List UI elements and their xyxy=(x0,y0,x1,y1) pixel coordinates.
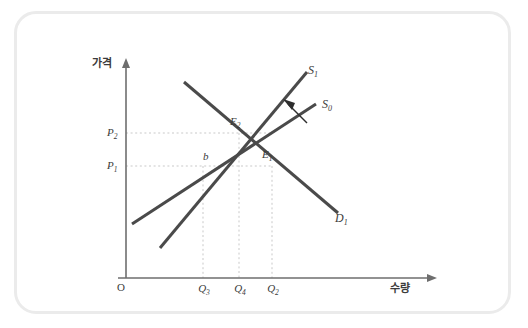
guide-lines xyxy=(126,133,272,278)
price-tick-p1-sub: 1 xyxy=(114,165,118,174)
price-tick-p1-base: P xyxy=(107,159,114,171)
axes xyxy=(118,65,430,278)
quantity-tick-q4-base: Q xyxy=(234,282,242,294)
price-tick-p2: P2 xyxy=(107,126,117,141)
supply-curve-s0 xyxy=(132,104,316,224)
point-label-e1: E1 xyxy=(262,148,272,163)
curve-label-d1-base: D xyxy=(335,211,344,225)
curve-label-s0-sub: 0 xyxy=(328,104,332,113)
quantity-tick-q2: Q2 xyxy=(264,282,282,297)
point-label-e2-base: E xyxy=(230,115,237,127)
point-label-b-base: b xyxy=(203,150,209,162)
quantity-tick-q2-base: Q xyxy=(267,282,275,294)
quantity-tick-q3-sub: 3 xyxy=(206,288,210,297)
point-label-e2: E2 xyxy=(230,115,240,130)
quantity-tick-q3-base: Q xyxy=(198,282,206,294)
point-label-e2-sub: 2 xyxy=(237,121,241,130)
supply-curve-s1 xyxy=(160,72,307,248)
curves xyxy=(132,72,338,248)
point-label-e1-base: E xyxy=(262,148,269,160)
quantity-tick-q3: Q3 xyxy=(195,282,213,297)
x-axis-arrowhead xyxy=(427,274,437,282)
y-axis-arrowhead xyxy=(122,58,130,68)
quantity-tick-q2-sub: 2 xyxy=(275,288,279,297)
screenshot-root: 가격 수량 O S1 S0 D1 E2 E1 b P2 P1 Q3 Q4 Q2 xyxy=(0,0,528,328)
quantity-tick-q4-sub: 4 xyxy=(242,288,246,297)
price-tick-p1: P1 xyxy=(107,159,117,174)
curve-label-d1: D1 xyxy=(335,211,348,227)
origin-label: O xyxy=(117,281,125,293)
price-tick-p2-base: P xyxy=(107,126,114,138)
curve-label-s0: S0 xyxy=(322,97,332,113)
x-axis-label: 수량 xyxy=(390,279,410,295)
curve-label-s1: S1 xyxy=(308,63,318,79)
price-tick-p2-sub: 2 xyxy=(114,132,118,141)
point-label-e1-sub: 1 xyxy=(269,154,273,163)
point-label-b: b xyxy=(203,150,209,165)
quantity-tick-q4: Q4 xyxy=(231,282,249,297)
curve-label-d1-sub: 1 xyxy=(344,218,348,227)
y-axis-label: 가격 xyxy=(92,54,112,70)
curve-label-s1-sub: 1 xyxy=(314,70,318,79)
supply-demand-chart xyxy=(0,0,528,328)
